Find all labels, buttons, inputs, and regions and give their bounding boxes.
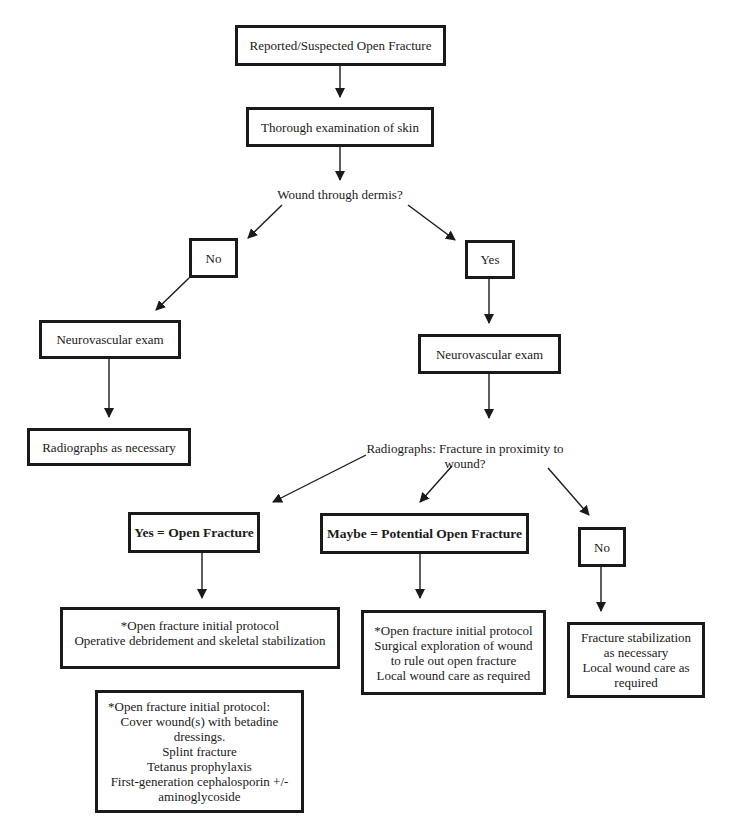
- node-radiographs-necessary: Radiographs as necessary: [27, 428, 191, 466]
- node-potential-protocol-line4: Local wound care as required: [377, 668, 531, 683]
- node-radiographs-no-text: No: [594, 540, 610, 555]
- node-open-fracture-text: Yes = Open Fracture: [134, 525, 254, 540]
- decision-radiographs-line1: Radiographs: Fracture in proximity to: [365, 441, 565, 456]
- node-potential-open-text: Maybe = Potential Open Fracture: [327, 526, 522, 541]
- node-no-protocol-line1: Fracture stabilization: [581, 630, 691, 645]
- node-neuro-left: Neurovascular exam: [39, 320, 181, 359]
- node-footnote-line1: *Open fracture initial protocol:: [98, 699, 270, 714]
- node-footnote-line3: dressings.: [174, 729, 226, 744]
- decision-dermis: Wound through dermis?: [240, 187, 440, 202]
- node-neuro-right-text: Neurovascular exam: [436, 347, 543, 362]
- node-potential-protocol: *Open fracture initial protocol Surgical…: [361, 610, 546, 695]
- node-potential-protocol-line2: Surgical exploration of wound: [374, 638, 532, 653]
- node-start: Reported/Suspected Open Fracture: [235, 25, 446, 66]
- node-open-fracture: Yes = Open Fracture: [128, 512, 260, 553]
- node-potential-open: Maybe = Potential Open Fracture: [320, 513, 529, 554]
- decision-radiographs-line2: wound?: [365, 456, 565, 471]
- node-neuro-right: Neurovascular exam: [418, 334, 561, 374]
- node-open-protocol-line1: *Open fracture initial protocol: [121, 618, 279, 633]
- node-no-protocol-line2: as necessary: [604, 645, 669, 660]
- node-no-protocol: Fracture stabilization as necessary Loca…: [567, 622, 705, 698]
- node-dermis-no-text: No: [206, 251, 222, 266]
- node-radiographs-necessary-text: Radiographs as necessary: [42, 440, 176, 455]
- node-skin-exam-text: Thorough examination of skin: [261, 120, 419, 135]
- node-footnote-line4: Splint fracture: [162, 744, 237, 759]
- node-skin-exam: Thorough examination of skin: [246, 107, 434, 147]
- decision-dermis-text: Wound through dermis?: [240, 187, 440, 202]
- node-no-protocol-line4: required: [614, 675, 657, 690]
- node-potential-protocol-line3: to rule out open fracture: [391, 653, 517, 668]
- node-open-protocol-line2: Operative debridement and skeletal stabi…: [74, 633, 325, 648]
- decision-radiographs: Radiographs: Fracture in proximity to wo…: [365, 441, 565, 471]
- node-potential-protocol-line1: *Open fracture initial protocol: [374, 623, 532, 638]
- node-radiographs-no: No: [578, 527, 626, 567]
- node-footnote-line2: Cover wound(s) with betadine: [121, 714, 279, 729]
- node-footnote-line7: aminoglycoside: [158, 789, 240, 804]
- node-dermis-yes-text: Yes: [481, 252, 500, 267]
- node-dermis-yes: Yes: [465, 240, 515, 279]
- node-footnote-line5: Tetanus prophylaxis: [147, 759, 252, 774]
- node-footnote-line6: First-generation cephalosporin +/-: [111, 774, 289, 789]
- node-footnote: *Open fracture initial protocol: Cover w…: [95, 690, 304, 813]
- node-open-protocol: *Open fracture initial protocol Operativ…: [60, 607, 340, 669]
- node-no-protocol-line3: Local wound care as: [582, 660, 689, 675]
- node-neuro-left-text: Neurovascular exam: [56, 332, 163, 347]
- node-start-text: Reported/Suspected Open Fracture: [250, 38, 432, 53]
- node-dermis-no: No: [189, 238, 238, 278]
